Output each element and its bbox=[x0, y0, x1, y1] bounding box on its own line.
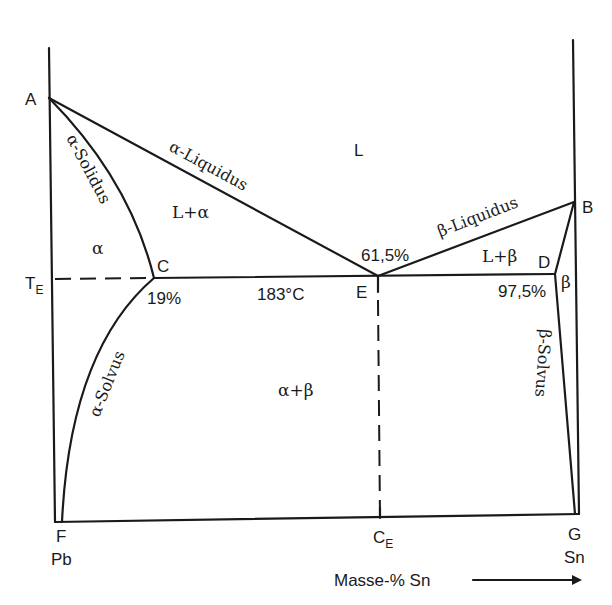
beta-solidus-line bbox=[555, 202, 574, 274]
right-axis-sn bbox=[573, 40, 579, 514]
region-liquid-beta: L+β bbox=[482, 246, 517, 266]
pb-label: Pb bbox=[51, 550, 72, 569]
alpha-liquidus-label: α-Liquidus bbox=[166, 137, 251, 195]
beta-solvus-line bbox=[555, 274, 575, 514]
point-c-label: C bbox=[157, 257, 169, 276]
point-b-label: B bbox=[582, 198, 593, 217]
eutectic-temperature-value: 183°C bbox=[257, 285, 304, 304]
eutectic-temperature-label: TE bbox=[25, 274, 43, 297]
region-alpha-beta: α+β bbox=[278, 380, 314, 400]
point-a-label: A bbox=[25, 90, 37, 109]
x-axis-label: Masse-% Sn bbox=[334, 571, 430, 590]
composition-d-label: 97,5% bbox=[498, 282, 546, 301]
point-e-label: E bbox=[356, 283, 367, 302]
bottom-axis bbox=[55, 514, 579, 522]
left-axis-pb bbox=[49, 48, 55, 522]
point-d-label: D bbox=[538, 253, 550, 272]
point-f-label: F bbox=[56, 527, 66, 546]
beta-liquidus-label: β-Liquidus bbox=[435, 193, 521, 241]
composition-c-label: 19% bbox=[147, 289, 181, 308]
region-alpha: α bbox=[92, 238, 104, 258]
point-g-label: G bbox=[568, 525, 581, 544]
region-liquid-alpha: L+α bbox=[172, 202, 210, 222]
eutectic-temperature-dashed-line bbox=[55, 278, 154, 279]
composition-e-label: 61,5% bbox=[361, 246, 409, 265]
alpha-solvus-label: α-Solvus bbox=[85, 348, 129, 420]
eutectic-composition-label: CE bbox=[373, 528, 393, 551]
phase-diagram: A B C D E F G Pb Sn TE CE 19% 61,5% 97,5… bbox=[0, 0, 612, 605]
sn-label: Sn bbox=[564, 548, 585, 567]
eutectic-line bbox=[154, 274, 555, 278]
region-beta: β bbox=[561, 272, 571, 292]
region-liquid: L bbox=[354, 141, 363, 160]
beta-solvus-label: β-Solvus bbox=[531, 329, 555, 398]
eutectic-composition-dashed-line bbox=[378, 300, 380, 518]
x-axis-arrow-icon bbox=[572, 575, 582, 585]
